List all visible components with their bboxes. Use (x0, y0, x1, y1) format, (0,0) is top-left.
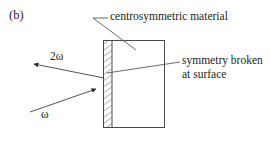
centrosymmetric-slab-body (104, 41, 165, 128)
label-symmetry-broken-at-surface: symmetry broken at surface (182, 54, 263, 81)
label-symmetry-broken-line1: symmetry broken (182, 54, 263, 68)
second-harmonic-beam-arrow (34, 64, 104, 78)
label-centrosymmetric-material: centrosymmetric material (110, 10, 228, 24)
incident-beam-arrow (30, 89, 96, 112)
label-incident-omega: ω (41, 108, 49, 122)
panel-label-b: (b) (9, 8, 24, 23)
label-second-harmonic-two-omega: 2ω (50, 50, 63, 64)
physics-figure-panel-b: (b) centrosymmetric material symmetry br… (0, 0, 270, 141)
surface-layer-hatched-region (104, 41, 113, 128)
label-symmetry-broken-line2: at surface (182, 68, 263, 82)
